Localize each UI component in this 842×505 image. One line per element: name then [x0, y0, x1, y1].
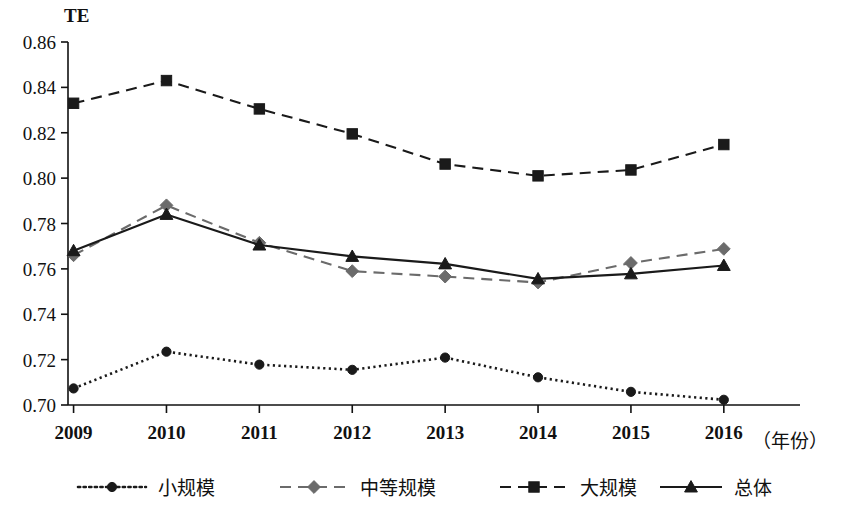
- y-axis-tick-label: 0.80: [23, 168, 56, 189]
- data-point-marker: [255, 360, 264, 369]
- legend-label: 中等规模: [360, 478, 436, 499]
- legend-label: 大规模: [580, 478, 637, 499]
- data-point-marker: [533, 171, 543, 181]
- data-point-marker: [440, 159, 450, 169]
- x-axis-tick-label: 2013: [426, 422, 464, 443]
- x-axis-tick-label: 2009: [55, 422, 93, 443]
- legend-item-1[interactable]: 小规模: [78, 478, 215, 499]
- data-point-marker: [161, 75, 171, 85]
- y-axis-tick-label: 0.76: [23, 259, 56, 280]
- x-axis-tick-label: 2014: [519, 422, 558, 443]
- chart-legend: 小规模中等规模大规模总体: [78, 478, 772, 499]
- legend-item-4[interactable]: 总体: [660, 478, 772, 499]
- data-point-marker: [533, 373, 542, 382]
- y-axis-tick-label: 0.84: [23, 77, 57, 98]
- y-axis-tick-label: 0.70: [23, 395, 56, 416]
- y-axis-tick-label: 0.74: [23, 304, 57, 325]
- y-axis: 0.860.840.820.800.780.760.740.720.70: [23, 32, 68, 416]
- legend-marker: [107, 482, 116, 491]
- x-axis-tick-label: 2012: [333, 422, 371, 443]
- data-point-marker: [162, 347, 171, 356]
- line-chart: 0.860.840.820.800.780.760.740.720.70 200…: [0, 0, 842, 505]
- legend-label: 总体: [734, 478, 772, 499]
- data-point-marker: [626, 387, 635, 396]
- data-point-marker: [346, 265, 359, 278]
- y-axis-tick-label: 0.86: [23, 32, 56, 53]
- y-axis-tick-label: 0.72: [23, 350, 56, 371]
- data-point-marker: [160, 208, 173, 219]
- x-axis-tick-label: 2016: [705, 422, 743, 443]
- data-point-marker: [254, 104, 264, 114]
- legend-marker: [308, 481, 321, 494]
- y-axis-tick-label: 0.78: [23, 214, 56, 235]
- data-point-marker: [347, 129, 357, 139]
- series-3: [68, 75, 729, 181]
- data-point-marker: [441, 353, 450, 362]
- legend-marker: [529, 482, 539, 492]
- legend-item-2[interactable]: 中等规模: [280, 478, 436, 499]
- data-point-marker: [719, 139, 729, 149]
- x-axis-tick-label: 2015: [612, 422, 650, 443]
- data-point-marker: [348, 365, 357, 374]
- legend-label: 小规模: [158, 478, 215, 499]
- data-point-marker: [68, 98, 78, 108]
- series-layer: [67, 75, 730, 404]
- data-point-marker: [719, 395, 728, 404]
- data-point-marker: [626, 165, 636, 175]
- series-1: [69, 347, 728, 404]
- data-point-marker: [717, 243, 730, 256]
- y-axis-tick-label: 0.82: [23, 123, 56, 144]
- x-axis: 20092010201120122013201420152016: [55, 405, 800, 443]
- x-axis-tick-label: 2010: [147, 422, 185, 443]
- series-4: [67, 208, 730, 284]
- data-point-marker: [69, 384, 78, 393]
- x-axis-title: （年份）: [752, 431, 828, 452]
- y-axis-unit-label: TE: [64, 5, 89, 26]
- data-point-marker: [439, 270, 452, 283]
- data-point-marker: [717, 259, 730, 270]
- chart-container: 0.860.840.820.800.780.760.740.720.70 200…: [0, 0, 842, 505]
- legend-item-3[interactable]: 大规模: [500, 478, 637, 499]
- x-axis-tick-label: 2011: [241, 422, 278, 443]
